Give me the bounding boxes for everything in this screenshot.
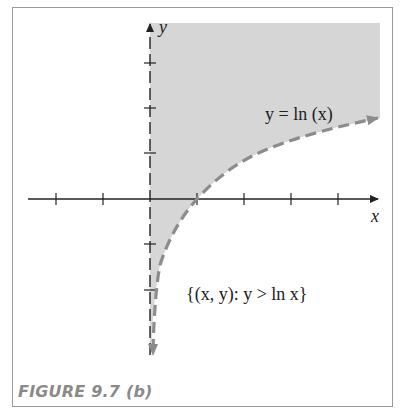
x-axis-label: x: [371, 206, 379, 227]
curve-label: y = ln (x): [265, 104, 333, 125]
figure-caption: FIGURE 9.7 (b): [18, 382, 153, 401]
shaded-region: [150, 23, 380, 355]
y-axis-label: y: [159, 17, 167, 38]
graph-canvas: [0, 0, 401, 420]
region-label: {(x, y): y > ln x}: [186, 284, 307, 305]
